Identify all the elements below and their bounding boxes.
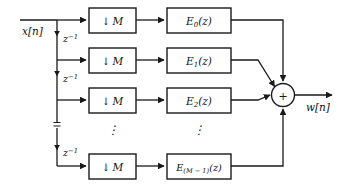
svg-text:z−1: z−1 <box>62 33 78 44</box>
downsample-factor-3: M <box>112 161 124 173</box>
filter-arg-2: (z) <box>198 95 212 107</box>
svg-text:z−1: z−1 <box>62 73 78 84</box>
downsample-arrow-icon-3: ↓ <box>102 161 111 173</box>
delay-exponent-2: −1 <box>68 73 78 81</box>
block-diagram: x[n] z−1 z−1 z−1 <box>0 0 346 190</box>
branch-row-3: ↓M E(M − 1)(z) <box>89 154 231 179</box>
summing-junction[interactable]: + <box>272 84 295 107</box>
input-signal-path: x[n] <box>20 20 57 37</box>
downsampler-column-ellipsis: ⋮ <box>107 123 119 137</box>
filter-column-ellipsis: ⋮ <box>193 123 205 137</box>
downsample-arrow-icon-2: ↓ <box>102 95 111 107</box>
filter-arg-1: (z) <box>198 55 212 67</box>
input-signal-label: x[n] <box>22 25 44 37</box>
downsampler-label-3: ↓M <box>102 161 124 173</box>
delay-exponent-3: −1 <box>68 147 78 155</box>
filter-base-0: E <box>185 15 194 27</box>
downsampler-label-2: ↓M <box>102 95 124 107</box>
sum-path-3 <box>231 109 283 166</box>
output-signal-label: w[n] <box>306 101 331 113</box>
filter-arg-3: (z) <box>209 162 222 173</box>
filter-subscript-3: (M − 1) <box>183 167 209 175</box>
sum-path-2 <box>231 95 270 100</box>
downsample-arrow-icon-1: ↓ <box>102 55 111 67</box>
filter-base-2: E <box>185 95 194 107</box>
delay-exponent-1: −1 <box>68 33 78 41</box>
sum-path-1 <box>231 60 275 87</box>
downsample-factor-0: M <box>112 15 124 27</box>
downsampler-label-0: ↓M <box>102 15 124 27</box>
delay-element-label-3: z−1 <box>62 147 78 158</box>
filter-base-1: E <box>185 55 194 67</box>
downsampler-label-1: ↓M <box>102 55 124 67</box>
branch-row-0: ↓M E0(z) <box>89 8 231 33</box>
delay-column-ellipsis <box>54 123 61 127</box>
delay-element-label-2: z−1 <box>62 73 78 84</box>
output-signal-path: w[n] <box>295 95 333 113</box>
branch-row-1: ↓M E1(z) <box>89 48 231 73</box>
downsample-arrow-icon-0: ↓ <box>102 15 111 27</box>
adder-plus-sign: + <box>278 90 287 103</box>
branch-row-2: ↓M E2(z) <box>89 88 231 113</box>
downsample-factor-1: M <box>112 55 124 67</box>
delay-element-label-1: z−1 <box>62 33 78 44</box>
svg-text:z−1: z−1 <box>62 147 78 158</box>
filter-base-3: E <box>175 162 183 173</box>
sum-path-0 <box>231 20 283 81</box>
filter-arg-0: (z) <box>198 15 212 27</box>
downsample-factor-2: M <box>112 95 124 107</box>
